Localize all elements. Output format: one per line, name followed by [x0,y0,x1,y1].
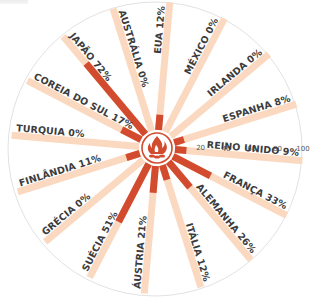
country-label: GRÉCIA 0% [40,190,93,237]
value-bar [122,130,141,140]
value-bar [162,165,167,180]
campfire-icon [142,133,172,163]
value-bar [126,153,139,157]
value-bar [174,140,184,143]
scale-tick-label: 20 [196,144,205,152]
country-label: IRLANDA 0% [205,46,264,98]
value-bar [175,150,186,151]
value-bar [153,166,155,193]
country-label: JAPÃO 72% [67,30,114,84]
value-bar [159,115,160,130]
radial-bar-chart: 20406080100 EUA 12%MÉXICO 0%IRLANDA 0%ES… [0,0,310,298]
